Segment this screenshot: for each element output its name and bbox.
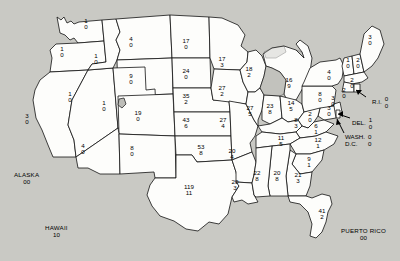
state-label-nd: 170 bbox=[174, 38, 198, 51]
state-value-lower: 3 bbox=[210, 62, 234, 68]
state-label-wa: 10 bbox=[74, 18, 98, 31]
state-label-id: 10 bbox=[84, 53, 108, 66]
state-label-or: 10 bbox=[50, 46, 74, 59]
state-value-lower: 1 bbox=[306, 143, 330, 149]
state-label-nm: 80 bbox=[120, 145, 144, 158]
state-value-lower: 0 bbox=[126, 116, 150, 122]
offmap-value-lower: 0 bbox=[56, 231, 59, 238]
offmap-value-lower: 0 bbox=[363, 234, 366, 241]
state-value-lower: 2 bbox=[310, 214, 334, 220]
state-value-lower: 2 bbox=[237, 72, 261, 78]
state-value-lower: 2 bbox=[210, 91, 234, 97]
state-label-ok: 538 bbox=[189, 144, 213, 157]
state-label-nv: 10 bbox=[58, 91, 82, 104]
state-value-lower: 3 bbox=[286, 178, 310, 184]
state-label-md: 30 bbox=[317, 105, 341, 118]
state-label-nc: 121 bbox=[306, 137, 330, 150]
callout-label-name: DEL. bbox=[352, 120, 366, 127]
state-outlines bbox=[33, 15, 384, 238]
state-value-lower: 1 bbox=[304, 129, 328, 135]
state-label-ks: 436 bbox=[174, 117, 198, 130]
state-value-lower: 0 bbox=[74, 24, 98, 30]
state-value-lower: 2 bbox=[174, 99, 198, 105]
state-value-lower: 5 bbox=[269, 141, 293, 147]
state-value-lower: 0 bbox=[92, 106, 116, 112]
state-value-lower: 0 bbox=[346, 63, 370, 69]
state-value-lower: 9 bbox=[277, 83, 301, 89]
state-value-lower: 0 bbox=[317, 111, 341, 117]
state-value-lower: 0 bbox=[58, 97, 82, 103]
offmap-label-hawaii: HAWAII10 bbox=[45, 225, 68, 238]
state-label-fl: 412 bbox=[310, 208, 334, 221]
state-value-lower: 0 bbox=[119, 42, 143, 48]
state-label-sc: 91 bbox=[297, 156, 321, 169]
state-value-lower: 4 bbox=[211, 123, 235, 129]
callout-label-name: R.I. bbox=[372, 99, 382, 106]
state-value-lower: 0 bbox=[358, 40, 382, 46]
offmap-label-puerto-rico: PUERTO RICO00 bbox=[341, 228, 386, 241]
state-label-wy: 90 bbox=[119, 73, 143, 86]
state-value-lower: 3 bbox=[223, 185, 247, 191]
state-label-tn: 115 bbox=[269, 135, 293, 148]
us-distribution-map: 1010104017024017390352272182169101019043… bbox=[0, 0, 400, 261]
state-value-lower: 8 bbox=[189, 150, 213, 156]
state-label-me: 30 bbox=[358, 34, 382, 47]
offmap-value-lower: 0 bbox=[27, 178, 30, 185]
state-value-lower: 0 bbox=[84, 59, 108, 65]
callout-label-name-2: D.C. bbox=[345, 141, 365, 148]
state-label-co: 190 bbox=[126, 110, 150, 123]
state-value-lower: 11 bbox=[177, 190, 201, 196]
offmap-label-alaska: ALASKA00 bbox=[14, 172, 39, 185]
state-label-ia: 272 bbox=[210, 85, 234, 98]
state-label-ut: 10 bbox=[92, 100, 116, 113]
state-value-lower: 0 bbox=[174, 44, 198, 50]
state-label-tx: 11911 bbox=[177, 184, 201, 197]
callout-value-lower: 0 bbox=[385, 103, 388, 110]
callout-label-del: DEL.10 bbox=[352, 117, 372, 130]
state-label-az: 40 bbox=[71, 143, 95, 156]
state-value-lower: 0 bbox=[15, 119, 39, 125]
callout-value-lower: 0 bbox=[369, 124, 372, 131]
state-label-la: 203 bbox=[223, 179, 247, 192]
state-label-mi: 169 bbox=[277, 77, 301, 90]
callout-label-wash: WASH.D.C.00 bbox=[345, 134, 372, 147]
state-value-lower: 0 bbox=[119, 79, 143, 85]
state-label-mt: 40 bbox=[119, 36, 143, 49]
state-label-nh: 20 bbox=[346, 57, 370, 70]
state-label-ne: 352 bbox=[174, 93, 198, 106]
state-label-sd: 240 bbox=[174, 68, 198, 81]
state-value-lower: 1 bbox=[297, 162, 321, 168]
state-value-lower: 0 bbox=[120, 151, 144, 157]
state-label-ca: 30 bbox=[15, 113, 39, 126]
state-value-lower: 0 bbox=[71, 149, 95, 155]
state-label-ar: 204 bbox=[220, 148, 244, 161]
state-value-lower: 4 bbox=[220, 154, 244, 160]
state-label-mo: 274 bbox=[211, 117, 235, 130]
state-label-va: 61 bbox=[304, 123, 328, 136]
callout-label-ri: R.I.00 bbox=[372, 96, 388, 109]
state-value-lower: 0 bbox=[50, 52, 74, 58]
state-label-ga: 213 bbox=[286, 172, 310, 185]
state-value-lower: 6 bbox=[174, 123, 198, 129]
state-value-lower: 0 bbox=[317, 75, 341, 81]
callout-value-lower: 0 bbox=[368, 141, 371, 148]
state-label-ny: 40 bbox=[317, 69, 341, 82]
state-value-lower: 0 bbox=[174, 74, 198, 80]
map-svg bbox=[0, 0, 400, 261]
state-label-mn: 173 bbox=[210, 56, 234, 69]
state-label-wi: 182 bbox=[237, 66, 261, 79]
